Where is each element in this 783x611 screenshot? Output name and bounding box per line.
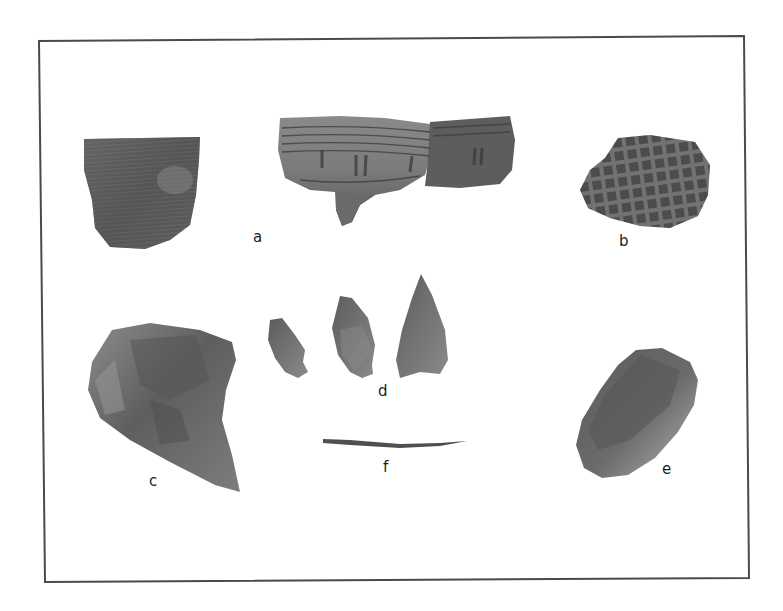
label-f: f: [383, 460, 388, 475]
artifact-a-rim-sherd: [278, 116, 515, 226]
label-a: a: [253, 230, 262, 245]
label-d: d: [378, 384, 388, 399]
artifact-plate: a b c d e f: [0, 0, 783, 611]
label-b: b: [619, 234, 629, 249]
artifact-a-sherd-left: [84, 137, 200, 249]
artifact-d-projectile-points: [268, 274, 448, 378]
artifact-c-stone-core: [88, 323, 240, 492]
artifact-e-scraper: [576, 348, 698, 478]
artifact-b-check-stamped-sherd: [580, 135, 710, 228]
figure-frame: [39, 36, 749, 582]
label-c: c: [149, 474, 157, 489]
label-e: e: [662, 462, 671, 477]
artifact-f-bone-pin: [323, 439, 467, 448]
